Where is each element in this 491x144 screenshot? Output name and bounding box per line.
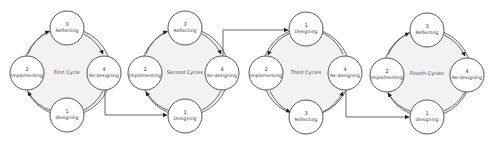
node-designing: 1 Designing xyxy=(289,12,323,46)
node-reflecting: 3 Reflecting xyxy=(410,13,444,47)
node-reflecting: 3 Reflecting xyxy=(168,11,202,45)
node-designing: 1 Designing xyxy=(410,100,444,134)
cycle-4: Fourth Cycles 3 Reflecting 2 Implementin… xyxy=(370,13,484,134)
svg-text:3: 3 xyxy=(183,21,186,27)
svg-text:2: 2 xyxy=(385,68,388,74)
svg-text:4: 4 xyxy=(102,66,105,72)
svg-text:Reflecting: Reflecting xyxy=(174,28,197,33)
svg-text:Designing: Designing xyxy=(416,117,439,122)
svg-text:1: 1 xyxy=(425,110,428,116)
svg-text:2: 2 xyxy=(25,66,28,72)
cycle-4-title: Fourth Cycles xyxy=(410,70,444,77)
node-implementing: 2 Implementing xyxy=(370,58,404,92)
svg-text:3: 3 xyxy=(425,23,428,29)
svg-text:3: 3 xyxy=(304,110,307,116)
node-designing: 1 Designing xyxy=(168,99,202,133)
node-re-designing: 4 Re-designing xyxy=(87,56,121,90)
svg-text:4: 4 xyxy=(220,66,223,72)
svg-text:Reflecting: Reflecting xyxy=(56,28,79,33)
svg-text:4: 4 xyxy=(465,68,468,74)
node-re-designing: 4 Re-designing xyxy=(450,58,484,92)
cycle-3-title: Third Cycles xyxy=(290,69,322,76)
svg-text:Reflecting: Reflecting xyxy=(416,30,439,35)
svg-text:2: 2 xyxy=(264,66,267,72)
svg-text:Implementing: Implementing xyxy=(250,73,282,78)
svg-text:1: 1 xyxy=(304,22,307,28)
svg-text:4: 4 xyxy=(343,66,346,72)
svg-text:1: 1 xyxy=(65,108,68,114)
svg-text:1: 1 xyxy=(183,109,186,115)
node-implementing: 2 Implementing xyxy=(249,56,283,90)
svg-text:Designing: Designing xyxy=(295,29,318,34)
svg-text:Re-designing: Re-designing xyxy=(330,73,360,78)
svg-text:Implementing: Implementing xyxy=(371,75,403,80)
svg-text:3: 3 xyxy=(65,21,68,27)
svg-text:Implementing: Implementing xyxy=(11,73,43,78)
node-reflecting: 3 Reflecting xyxy=(50,11,84,45)
cycle-1-title: First Cycle xyxy=(54,69,80,76)
research-cycles-diagram: First Cycle 3 Reflecting 2 Implementing … xyxy=(0,0,491,144)
svg-text:Re-designing: Re-designing xyxy=(452,75,482,80)
node-reflecting: 3 Reflecting xyxy=(289,100,323,134)
node-designing: 1 Designing xyxy=(50,98,84,132)
svg-text:Designing: Designing xyxy=(56,115,79,120)
node-implementing: 2 Implementing xyxy=(10,56,44,90)
cycle-2-title: Second Cycles xyxy=(167,69,204,76)
svg-text:Re-designing: Re-designing xyxy=(207,73,237,78)
node-re-designing: 4 Re-designing xyxy=(328,56,362,90)
cycle-1: First Cycle 3 Reflecting 2 Implementing … xyxy=(10,11,121,132)
svg-text:Designing: Designing xyxy=(174,116,197,121)
node-re-designing: 4 Re-designing xyxy=(205,56,239,90)
svg-text:2: 2 xyxy=(143,66,146,72)
svg-text:Re-designing: Re-designing xyxy=(89,73,119,78)
svg-text:Implementing: Implementing xyxy=(129,73,161,78)
node-implementing: 2 Implementing xyxy=(128,56,162,90)
svg-text:Reflecting: Reflecting xyxy=(295,117,318,122)
